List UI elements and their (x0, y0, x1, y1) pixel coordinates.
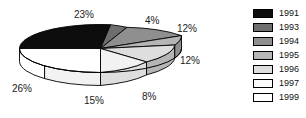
legend-item-1993[interactable]: 1993 (253, 20, 305, 34)
slice-label-1994: 12% (177, 24, 197, 34)
chart-legend: 1991 1993 1994 1995 1996 1997 1999 (253, 6, 305, 104)
legend-label: 1996 (279, 65, 299, 74)
legend-item-1999[interactable]: 1999 (253, 90, 305, 104)
pie-slice-1991 (20, 25, 111, 49)
legend-item-1996[interactable]: 1996 (253, 62, 305, 76)
slice-label-1997: 15% (84, 96, 104, 106)
legend-item-1997[interactable]: 1997 (253, 76, 305, 90)
slice-label-1993: 4% (145, 16, 159, 26)
legend-label: 1993 (279, 23, 299, 32)
legend-swatch-icon (253, 37, 273, 46)
slice-label-1996: 8% (142, 92, 156, 102)
legend-item-1995[interactable]: 1995 (253, 48, 305, 62)
legend-swatch-icon (253, 23, 273, 32)
legend-item-1991[interactable]: 1991 (253, 6, 305, 20)
pie-chart-graphic (0, 0, 240, 118)
legend-swatch-icon (253, 51, 273, 60)
slice-label-1999: 26% (12, 84, 32, 94)
legend-label: 1995 (279, 51, 299, 60)
legend-swatch-icon (253, 93, 273, 102)
pie-plot-area: 23% 4% 12% 12% 8% 15% 26% (0, 0, 240, 118)
legend-label: 1997 (279, 79, 299, 88)
legend-item-1994[interactable]: 1994 (253, 34, 305, 48)
legend-swatch-icon (253, 9, 273, 18)
legend-swatch-icon (253, 79, 273, 88)
legend-label: 1999 (279, 93, 299, 102)
slice-label-1991: 23% (74, 10, 94, 20)
slice-label-1995: 12% (180, 56, 200, 66)
legend-label: 1991 (279, 9, 299, 18)
legend-swatch-icon (253, 65, 273, 74)
legend-label: 1994 (279, 37, 299, 46)
pie-chart-figure: 23% 4% 12% 12% 8% 15% 26% 1991 1993 1994… (0, 0, 306, 118)
